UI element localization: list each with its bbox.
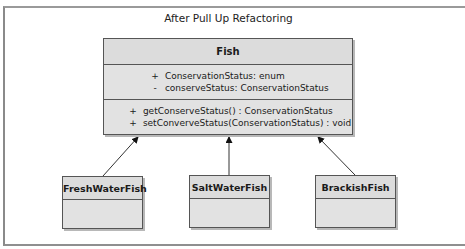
attribute-text: conserveStatus: ConservationStatus	[165, 83, 329, 93]
class-freshwaterfish[interactable]: FreshWaterFish	[62, 176, 143, 229]
operation-text: setConverveStatus(ConservationStatus) : …	[143, 118, 351, 128]
class-brackishfish-body	[316, 199, 395, 227]
class-saltwaterfish-name: SaltWaterFish	[190, 176, 269, 199]
class-brackishfish[interactable]: BrackishFish	[315, 175, 396, 228]
class-fish-name: Fish	[104, 39, 352, 65]
class-freshwaterfish-name: FreshWaterFish	[63, 177, 142, 200]
class-brackishfish-name: BrackishFish	[316, 176, 395, 199]
visibility-marker: +	[148, 70, 162, 82]
operation-text: getConserveStatus() : ConservationStatus	[143, 106, 333, 116]
visibility-marker: +	[126, 117, 140, 129]
visibility-marker: +	[126, 105, 140, 117]
class-saltwaterfish-body	[190, 199, 269, 227]
class-saltwaterfish[interactable]: SaltWaterFish	[189, 175, 270, 228]
class-freshwaterfish-body	[63, 200, 142, 228]
attribute-row: - conserveStatus: ConservationStatus	[148, 82, 352, 94]
class-fish-attributes: + ConservationStatus: enum - conserveSta…	[104, 65, 352, 100]
attribute-text: ConservationStatus: enum	[165, 71, 285, 81]
operation-row: + setConverveStatus(ConservationStatus) …	[126, 117, 352, 129]
link-freshwater-to-fish	[103, 137, 138, 176]
link-brackish-to-fish	[318, 137, 355, 175]
attribute-row: + ConservationStatus: enum	[148, 70, 352, 82]
class-fish-operations: + getConserveStatus() : ConservationStat…	[104, 100, 352, 134]
operation-row: + getConserveStatus() : ConservationStat…	[126, 105, 352, 117]
class-fish[interactable]: Fish + ConservationStatus: enum - conser…	[103, 38, 353, 135]
visibility-marker: -	[148, 82, 162, 94]
